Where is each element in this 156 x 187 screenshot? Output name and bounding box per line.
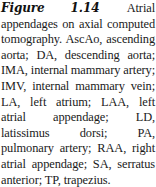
figure-label: Figure 1.14 — [1, 1, 99, 15]
caption-text: Atrial appendages on axial computed tomo… — [1, 1, 155, 160]
figure-caption: Figure 1.14 Atrial appendages on axial c… — [1, 1, 155, 160]
